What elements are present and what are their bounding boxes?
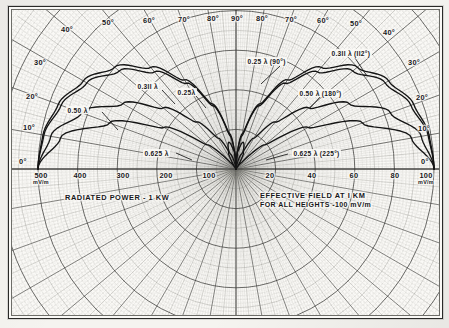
elev-label-right-0: 0°	[421, 157, 429, 166]
left-tick-300-value: 300	[106, 171, 140, 180]
right-tick-20: 20	[255, 171, 285, 180]
right-tick-40: 40	[297, 171, 327, 180]
left-tick-300: 300	[106, 171, 140, 180]
left-tick-200-value: 200	[149, 171, 183, 180]
elev-label-right-40: 40°	[383, 28, 395, 37]
elev-label-left-50: 50°	[102, 18, 114, 27]
elev-label-left-0: 0°	[19, 157, 27, 166]
left-tick-100: 100	[192, 171, 226, 180]
curve-label-0625-left: 0.625 λ	[143, 149, 170, 157]
left-tick-400-value: 400	[63, 171, 97, 180]
elev-label-right-30: 30°	[408, 58, 420, 67]
curve-label-025-left: 0.25λ	[176, 88, 197, 96]
right-tick-100-unit: mV/m	[410, 180, 440, 186]
curve-label-0625-right: 0.625 λ (225°)	[292, 149, 341, 157]
elev-label-right-70: 70°	[285, 15, 297, 24]
elev-label-right-20: 20°	[416, 93, 428, 102]
elev-label-left-60: 60°	[143, 16, 155, 25]
elev-label-right-90: 90°	[231, 14, 243, 23]
right-tick-20-value: 20	[255, 171, 285, 180]
right-scale-caption-line2: FOR ALL HEIGHTS -100 mV/m	[260, 201, 371, 208]
elev-label-left-80: 80°	[207, 14, 219, 23]
elev-label-left-10: 10°	[23, 123, 35, 132]
left-tick-200: 200	[149, 171, 183, 180]
curve-label-0311-right: 0.3II λ (II2°)	[330, 49, 372, 57]
right-tick-100: 100 mV/m	[410, 171, 440, 186]
elev-label-left-40: 40°	[61, 25, 73, 34]
left-scale-caption: RADIATED POWER - 1 KW	[65, 193, 169, 202]
elev-label-left-70: 70°	[178, 15, 190, 24]
right-tick-80-value: 80	[380, 171, 410, 180]
elev-label-right-60: 60°	[317, 16, 329, 25]
left-tick-400: 400	[63, 171, 97, 180]
curve-label-025-right: 0.25 λ (90°)	[246, 57, 287, 65]
right-tick-80: 80	[380, 171, 410, 180]
curve-label-0311-left: 0.3II λ	[136, 82, 159, 90]
right-tick-60: 60	[339, 171, 369, 180]
curve-label-050-right: 0.50 λ (180°)	[298, 89, 343, 97]
right-scale-caption-line1: EFFECTIVE FIELD AT I KM	[260, 191, 365, 200]
chart-plate: 0° 10° 20° 30° 40° 50° 60° 70° 80° 90° 8…	[8, 6, 443, 319]
right-tick-40-value: 40	[297, 171, 327, 180]
curve-label-050-left: 0.50 λ	[66, 106, 89, 114]
radiation-pattern-chart: 0° 10° 20° 30° 40° 50° 60° 70° 80° 90° 8…	[0, 0, 449, 328]
elev-label-right-10: 10°	[418, 124, 430, 133]
elev-label-left-20: 20°	[26, 92, 38, 101]
elev-label-right-50: 50°	[350, 19, 362, 28]
right-tick-60-value: 60	[339, 171, 369, 180]
polar-grid	[12, 10, 440, 316]
elev-label-left-30: 30°	[34, 58, 46, 67]
chart-plate-inner: 0° 10° 20° 30° 40° 50° 60° 70° 80° 90° 8…	[11, 9, 440, 316]
left-tick-500: 500 mV/m	[24, 171, 58, 186]
left-tick-500-unit: mV/m	[24, 180, 58, 186]
left-tick-100-value: 100	[192, 171, 226, 180]
elev-label-right-80: 80°	[256, 14, 268, 23]
